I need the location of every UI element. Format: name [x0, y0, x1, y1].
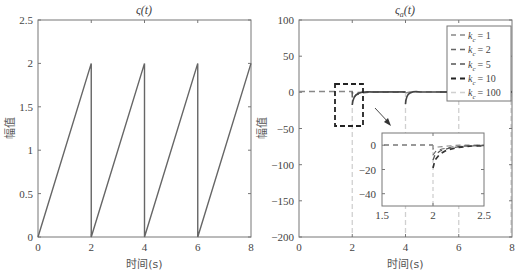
zoom-region-box — [335, 84, 363, 126]
svg-text:2.5: 2.5 — [19, 14, 33, 26]
svg-text:2: 2 — [350, 241, 356, 253]
svg-text:8: 8 — [248, 241, 254, 253]
svg-text:0.5: 0.5 — [19, 188, 33, 200]
inset-chart: 0 −20 −40 1.5 2 2.5 — [359, 133, 492, 221]
left-y-tick-labels: 0 0.5 1 1.5 2 2.5 — [19, 14, 33, 243]
svg-text:0: 0 — [296, 241, 302, 253]
svg-text:6: 6 — [195, 241, 201, 253]
svg-text:6: 6 — [456, 241, 462, 253]
left-x-tick-labels: 0 2 4 6 8 — [35, 241, 254, 253]
svg-text:4: 4 — [142, 241, 148, 253]
svg-text:1.5: 1.5 — [19, 101, 33, 113]
left-chart-title: ς(t) — [136, 3, 152, 17]
svg-text:−150: −150 — [271, 195, 294, 207]
figure: ς(t) 0 0.5 1 1.5 2 2.5 0 2 — [0, 0, 517, 275]
svg-text:0: 0 — [371, 139, 377, 151]
svg-text:−40: −40 — [359, 188, 377, 200]
inset-x-tick-labels: 1.5 2 2.5 — [375, 209, 491, 221]
sawtooth-line — [38, 63, 251, 237]
left-y-axis-label: 幅值 — [4, 117, 17, 139]
inset-y-tick-labels: 0 −20 −40 — [359, 139, 377, 200]
right-y-tick-labels: 100 50 0 −50 −100 −150 −200 — [271, 14, 294, 243]
svg-text:0: 0 — [28, 231, 34, 243]
svg-text:100: 100 — [278, 14, 295, 26]
svg-text:1.5: 1.5 — [375, 209, 389, 221]
zoom-arrow — [375, 108, 391, 126]
svg-text:−50: −50 — [277, 123, 295, 135]
svg-text:−100: −100 — [271, 159, 294, 171]
svg-text:8: 8 — [509, 241, 515, 253]
svg-text:2: 2 — [28, 57, 34, 69]
right-chart-title: ςa(t) — [395, 3, 415, 19]
svg-text:50: 50 — [283, 50, 295, 62]
svg-text:0: 0 — [289, 86, 295, 98]
left-x-axis-label: 时间(s) — [126, 258, 162, 271]
svg-text:−200: −200 — [271, 231, 294, 243]
svg-text:4: 4 — [403, 241, 409, 253]
svg-text:2.5: 2.5 — [477, 209, 491, 221]
left-chart: ς(t) 0 0.5 1 1.5 2 2.5 0 2 — [4, 3, 254, 271]
svg-text:1: 1 — [28, 144, 34, 156]
right-x-tick-labels: 0 2 4 6 8 — [296, 241, 515, 253]
svg-text:0: 0 — [35, 241, 41, 253]
right-x-axis-label: 时间(s) — [387, 258, 423, 271]
svg-text:−20: −20 — [359, 164, 377, 176]
svg-text:2: 2 — [430, 209, 436, 221]
right-y-axis-label: 幅值 — [256, 117, 269, 139]
legend: kc= 1 kc= 2 kc= 5 kc= 10 kc= 100 — [447, 26, 511, 101]
svg-text:2: 2 — [89, 241, 95, 253]
right-chart: ςa(t) 100 50 0 −50 — [256, 3, 515, 271]
